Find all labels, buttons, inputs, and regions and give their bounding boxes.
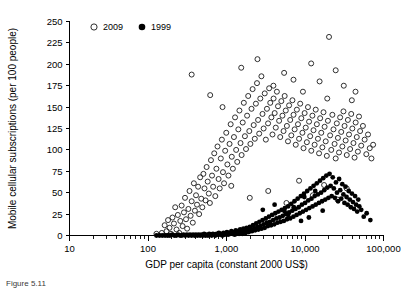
data-point-1999	[364, 211, 369, 216]
figure-container: 0255075100125150175200225250101001,00010…	[0, 0, 409, 292]
data-point-2009	[192, 208, 197, 213]
data-point-2009	[174, 227, 179, 232]
data-point-1999	[343, 184, 348, 189]
data-point-2009	[230, 166, 235, 171]
data-point-2009	[319, 130, 324, 135]
data-point-2009	[345, 117, 350, 122]
y-axis-tick-label: 175	[47, 80, 63, 91]
data-point-2009	[179, 203, 184, 208]
data-point-2009	[259, 74, 264, 79]
data-point-2009	[344, 153, 349, 158]
data-point-2009	[170, 215, 175, 220]
data-point-2009	[329, 147, 334, 152]
data-point-1999	[368, 218, 373, 223]
data-point-1999	[299, 219, 304, 224]
data-point-2009	[291, 112, 296, 117]
x-axis-tick-label: 10,000	[290, 243, 319, 254]
data-point-2009	[343, 138, 348, 143]
data-point-2009	[320, 145, 325, 150]
data-point-1999	[282, 209, 287, 214]
data-point-2009	[233, 115, 238, 120]
data-point-2009	[362, 137, 367, 142]
data-point-2009	[291, 77, 296, 82]
data-point-2009	[262, 91, 267, 96]
data-point-2009	[268, 100, 273, 105]
data-point-2009	[289, 133, 294, 138]
data-point-2009	[183, 195, 188, 200]
data-point-2009	[308, 134, 313, 139]
data-point-2009	[251, 123, 256, 128]
data-point-2009	[263, 137, 268, 142]
data-point-2009	[288, 117, 293, 122]
data-point-2009	[214, 166, 219, 171]
data-point-2009	[300, 89, 305, 94]
data-point-2009	[335, 135, 340, 140]
data-point-2009	[317, 151, 322, 156]
data-point-2009	[227, 141, 232, 146]
data-point-2009	[274, 89, 279, 94]
data-point-2009	[210, 173, 215, 178]
data-point-2009	[213, 194, 218, 199]
data-point-2009	[342, 123, 347, 128]
data-point-2009	[317, 79, 322, 84]
data-point-1999	[260, 207, 265, 212]
data-point-2009	[190, 220, 195, 225]
data-point-2009	[239, 153, 244, 158]
data-point-2009	[229, 154, 234, 159]
data-point-2009	[312, 142, 317, 147]
data-point-2009	[337, 150, 342, 155]
data-point-2009	[349, 98, 354, 103]
y-axis-tick-label: 0	[57, 230, 62, 241]
data-point-2009	[285, 139, 290, 144]
data-point-2009	[189, 72, 194, 77]
data-point-2009	[271, 96, 276, 101]
data-point-2009	[299, 116, 304, 121]
data-point-2009	[347, 132, 352, 137]
data-point-2009	[257, 131, 262, 136]
legend-marker-2009	[91, 24, 97, 30]
x-axis-tick-label: 10	[64, 243, 75, 254]
legend-label-2009: 2009	[103, 22, 123, 32]
data-point-2009	[244, 147, 249, 152]
data-point-2009	[167, 225, 172, 230]
data-point-2009	[301, 146, 306, 151]
data-point-2009	[202, 186, 207, 191]
data-point-2009	[307, 119, 312, 124]
data-point-1999	[337, 177, 342, 182]
data-point-2009	[313, 107, 318, 112]
data-point-2009	[355, 149, 360, 154]
data-point-2009	[353, 120, 358, 125]
data-point-2009	[352, 155, 357, 160]
data-point-1999	[331, 186, 336, 191]
data-point-2009	[256, 117, 261, 122]
data-point-2009	[327, 34, 332, 39]
data-point-2009	[321, 110, 326, 115]
data-point-2009	[293, 142, 298, 147]
data-point-1999	[306, 215, 311, 220]
data-point-2009	[223, 148, 228, 153]
data-point-2009	[258, 96, 263, 101]
data-point-1999	[313, 189, 318, 194]
data-point-2009	[304, 140, 309, 145]
data-point-2009	[348, 147, 353, 152]
data-point-2009	[186, 206, 191, 211]
data-point-2009	[339, 129, 344, 134]
data-point-2009	[208, 158, 213, 163]
data-point-2009	[353, 89, 358, 94]
data-point-2009	[171, 221, 176, 226]
data-point-2009	[197, 212, 202, 217]
data-point-2009	[250, 87, 255, 92]
data-point-1999	[338, 188, 343, 193]
y-axis-tick-label: 150	[47, 102, 63, 113]
data-point-2009	[281, 129, 286, 134]
data-point-2009	[246, 93, 251, 98]
data-point-2009	[302, 111, 307, 116]
data-point-2009	[371, 142, 376, 147]
data-point-2009	[224, 130, 229, 135]
data-point-2009	[238, 141, 243, 146]
x-axis-tick-label: 100,000	[366, 243, 400, 254]
series-1999	[154, 171, 373, 237]
data-point-2009	[266, 188, 271, 193]
data-point-2009	[234, 147, 239, 152]
y-axis-tick-label: 250	[47, 16, 63, 27]
